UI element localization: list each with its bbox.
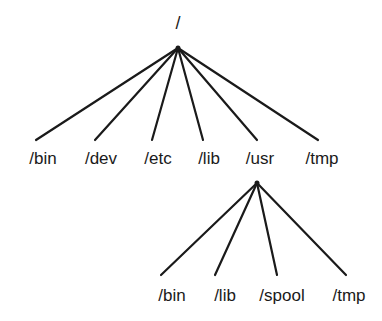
- edge-usr-to-spool: [257, 183, 277, 275]
- usr-dir-label-tmp: /tmp: [332, 287, 365, 305]
- usr-node-point: [255, 181, 260, 186]
- edge-usr-to-tmp: [257, 183, 346, 275]
- dir-label-bin: /bin: [29, 150, 56, 168]
- usr-dir-label-spool: /spool: [259, 287, 304, 305]
- root-node-point: [176, 46, 181, 51]
- usr-dir-label-lib: /lib: [214, 287, 236, 305]
- dir-label-tmp: /tmp: [305, 150, 338, 168]
- root-edges: [36, 48, 318, 140]
- dir-label-dev: /dev: [85, 150, 117, 168]
- root-directory-label: /: [175, 14, 180, 32]
- usr-edges: [161, 183, 346, 275]
- edge-usr-to-lib: [215, 183, 257, 275]
- usr-dir-label-bin: /bin: [158, 287, 185, 305]
- dir-label-usr: /usr: [246, 150, 274, 168]
- edge-usr-to-bin: [161, 183, 257, 275]
- dir-label-etc: /etc: [144, 150, 171, 168]
- dir-label-lib: /lib: [198, 150, 220, 168]
